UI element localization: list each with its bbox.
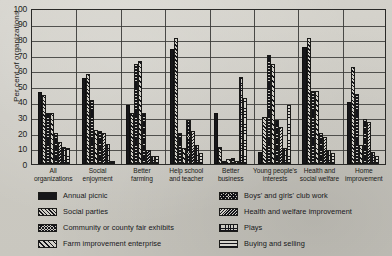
bar-chart-figure: Per cent of organizations 01020304050607… — [0, 0, 392, 256]
legend-item: Farm improvement enterprise — [38, 236, 211, 252]
bar — [155, 156, 159, 164]
x-axis-label: Betterfarming — [120, 167, 164, 184]
legend-item: Buying and selling — [219, 236, 392, 252]
bar — [287, 105, 291, 164]
bar-group — [120, 10, 164, 164]
legend-label: Buying and selling — [244, 240, 305, 247]
legend-label: Plays — [244, 224, 262, 231]
bar — [243, 98, 247, 164]
plot-area — [31, 9, 386, 165]
y-axis-tick-label: 10 — [0, 145, 27, 154]
x-axis-label: Allorganizations — [31, 167, 75, 184]
legend-item: Plays — [219, 220, 392, 236]
bar-groups — [32, 10, 385, 164]
legend-column-left: Annual picnicSocial partiesCommunity or … — [0, 188, 211, 254]
x-axis-label: Young people'sinterests — [253, 167, 297, 184]
bar-group — [209, 10, 253, 164]
legend-label: Farm improvement enterprise — [63, 240, 161, 247]
legend-label: Annual picnic — [63, 192, 108, 199]
y-axis-tick-label: 20 — [0, 130, 27, 139]
legend-item: Community or county fair exhibits — [38, 220, 211, 236]
y-axis-tick-label: 0 — [0, 161, 27, 170]
bar — [375, 156, 379, 164]
x-axis-labels: AllorganizationsSocialenjoymentBetterfar… — [31, 167, 386, 184]
legend-item: Annual picnic — [38, 188, 211, 204]
legend-swatch — [38, 224, 57, 232]
legend-item: Social parties — [38, 204, 211, 220]
legend-swatch — [219, 208, 238, 216]
bar — [331, 153, 335, 164]
x-axis-label: Help schooland teacher — [164, 167, 208, 184]
bar-group — [164, 10, 208, 164]
legend: Annual picnicSocial partiesCommunity or … — [0, 188, 392, 254]
bar-group — [297, 10, 341, 164]
bar-group — [32, 10, 76, 164]
legend-label: Community or county fair exhibits — [63, 224, 174, 231]
bar — [66, 148, 70, 164]
legend-item: Boys' and girls' club work — [219, 188, 392, 204]
legend-swatch — [219, 192, 238, 200]
legend-swatch — [219, 224, 238, 232]
bar-group — [253, 10, 297, 164]
bar — [199, 153, 203, 164]
x-axis-label: Homeimprovement — [342, 167, 386, 184]
legend-label: Health and welfare improvement — [244, 208, 352, 215]
legend-swatch — [38, 192, 57, 200]
x-axis-label: Socialenjoyment — [75, 167, 119, 184]
x-axis-label: Health andsocial welfare — [297, 167, 341, 184]
bar-group — [76, 10, 120, 164]
bar-group — [341, 10, 385, 164]
y-axis-title: Per cent of organizations — [12, 0, 21, 117]
legend-swatch — [38, 208, 57, 216]
legend-column-right: Boys' and girls' club workHealth and wel… — [211, 188, 392, 254]
legend-item: Health and welfare improvement — [219, 204, 392, 220]
legend-swatch — [38, 240, 57, 248]
legend-label: Boys' and girls' club work — [244, 192, 328, 199]
x-axis-label: Betterbusiness — [209, 167, 253, 184]
bar — [110, 161, 114, 164]
legend-swatch — [219, 240, 238, 248]
legend-label: Social parties — [63, 208, 108, 215]
